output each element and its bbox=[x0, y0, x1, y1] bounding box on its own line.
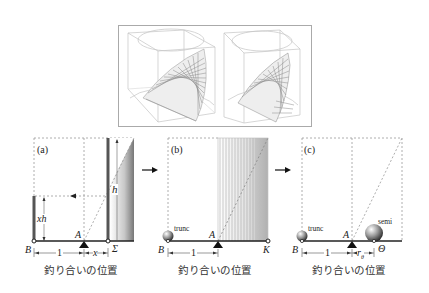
label-r-theta: rθ bbox=[357, 248, 364, 260]
label-B-c: B bbox=[292, 245, 298, 255]
label-Theta: Θ bbox=[378, 244, 385, 254]
label-1-b: 1 bbox=[190, 248, 197, 258]
label-K: K bbox=[263, 245, 270, 255]
caption-b: 釣り合いの位置 bbox=[178, 262, 252, 277]
label-semi: semi bbox=[378, 218, 392, 226]
panel-a-tag: (a) bbox=[37, 145, 48, 155]
label-A-b: A bbox=[209, 230, 215, 240]
caption-c: 釣り合いの位置 bbox=[312, 262, 386, 277]
label-B-a: B bbox=[25, 245, 31, 255]
label-A-a: A bbox=[75, 230, 81, 240]
panel-c bbox=[297, 138, 403, 257]
lever-diagrams bbox=[0, 0, 429, 293]
label-h: h bbox=[112, 184, 118, 195]
arrow-b-to-c bbox=[275, 167, 291, 173]
panel-c-tag: (c) bbox=[304, 145, 315, 155]
label-Sigma: Σ bbox=[112, 244, 118, 254]
panel-b bbox=[163, 138, 271, 257]
arrow-a-to-b bbox=[142, 167, 158, 173]
label-1-a: 1 bbox=[56, 248, 63, 258]
caption-a: 釣り合いの位置 bbox=[44, 262, 118, 277]
label-B-b: B bbox=[158, 245, 164, 255]
label-A-c: A bbox=[343, 230, 349, 240]
label-x: x bbox=[93, 248, 97, 258]
label-xh: xh bbox=[37, 214, 46, 224]
label-1-c: 1 bbox=[324, 248, 331, 258]
panel-a bbox=[32, 138, 134, 257]
label-r-subscript: θ bbox=[361, 254, 364, 260]
label-trunc-c: trunc bbox=[308, 225, 323, 233]
panel-b-tag: (b) bbox=[171, 145, 183, 155]
label-trunc-b: trunc bbox=[174, 225, 189, 233]
